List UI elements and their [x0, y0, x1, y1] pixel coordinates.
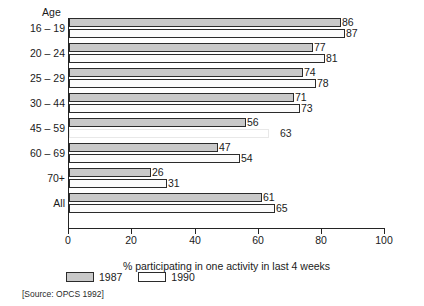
bar-1987: 71 — [69, 93, 294, 102]
x-tick-label-40: 40 — [189, 234, 201, 246]
bar-1987: 56 — [69, 118, 246, 127]
axis-header-age: Age — [42, 6, 61, 18]
category-label: 70+ — [47, 172, 65, 184]
x-tick-label-20: 20 — [125, 234, 137, 246]
bar-1990: 81 — [69, 54, 325, 63]
category-label: All — [53, 197, 65, 209]
bar-1990: 65 — [69, 204, 275, 213]
bar-value-label: 77 — [314, 43, 326, 52]
bar-value-label: 74 — [304, 68, 316, 77]
bar-value-label: 61 — [263, 193, 275, 202]
category-label: 25 – 29 — [30, 72, 65, 84]
bar-1987: 26 — [69, 168, 151, 177]
bar-1990: 87 — [69, 29, 345, 38]
bar-1987: 47 — [69, 143, 218, 152]
legend-item-1990: 1990 — [138, 271, 194, 283]
bar-value-label: 63 — [280, 129, 292, 138]
legend-label: 1990 — [171, 271, 194, 283]
bar-value-label: 73 — [301, 104, 313, 113]
bar-1987: 86 — [69, 18, 341, 27]
category-label: 60 – 69 — [30, 147, 65, 159]
bar-value-label: 26 — [152, 168, 164, 177]
x-tick-label-0: 0 — [65, 234, 71, 246]
bar-1990: 63 — [69, 129, 269, 138]
bar-1990: 31 — [69, 179, 167, 188]
x-tick-label-80: 80 — [315, 234, 327, 246]
bar-1987: 74 — [69, 68, 303, 77]
legend-label: 1987 — [99, 271, 122, 283]
bar-value-label: 71 — [295, 93, 307, 102]
bar-value-label: 47 — [219, 143, 231, 152]
bar-value-label: 78 — [317, 79, 329, 88]
bar-1987: 77 — [69, 43, 313, 52]
bar-value-label: 65 — [276, 204, 288, 213]
bar-value-label: 54 — [241, 154, 253, 163]
bar-value-label: 31 — [168, 179, 180, 188]
legend-swatch-icon — [138, 272, 166, 282]
legend-item-1987: 1987 — [66, 271, 122, 283]
bar-value-label: 86 — [342, 18, 354, 27]
legend: 1987 1990 — [66, 271, 195, 283]
x-axis-line — [68, 228, 385, 229]
category-label: 20 – 24 — [30, 47, 65, 59]
source-note: [Source: OPCS 1992] — [22, 289, 104, 299]
category-label: 45 – 59 — [30, 122, 65, 134]
bar-1987: 61 — [69, 193, 262, 202]
bar-1990: 73 — [69, 104, 300, 113]
x-tick-label-100: 100 — [375, 234, 393, 246]
bar-value-label: 81 — [326, 54, 338, 63]
bar-value-label: 87 — [346, 29, 358, 38]
bar-1990: 54 — [69, 154, 240, 163]
category-label: 16 – 19 — [30, 22, 65, 34]
bar-1990: 78 — [69, 79, 316, 88]
x-tick-label-60: 60 — [252, 234, 264, 246]
category-label: 30 – 44 — [30, 97, 65, 109]
bar-value-label: 56 — [247, 118, 259, 127]
plot-area: 0 20 40 60 80 100 16 – 19 86 87 20 – 24 … — [68, 18, 385, 229]
legend-swatch-icon — [66, 272, 94, 282]
bar-chart: Age 0 20 40 60 80 100 16 – 19 86 87 20 –… — [0, 0, 424, 306]
